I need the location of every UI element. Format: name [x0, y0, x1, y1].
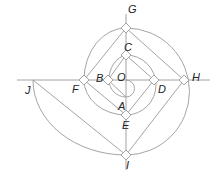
point-label-G: G [128, 4, 137, 15]
segment-DE [126, 80, 154, 115]
point-label-D: D [158, 84, 166, 95]
point-label-B: B [96, 73, 103, 84]
point-label-F: F [72, 84, 79, 95]
point-label-H: H [192, 72, 200, 83]
point-label-I: I [126, 160, 129, 171]
point-label-E: E [122, 120, 129, 131]
point-label-A: A [118, 101, 125, 112]
point-label-J: J [25, 85, 31, 96]
segment-JI [33, 80, 126, 155]
diagram-canvas [0, 0, 220, 178]
point-label-O: O [117, 72, 126, 83]
spiral-diagram: GCBODHFJAEI [0, 0, 220, 178]
segment-GH [126, 28, 184, 80]
spiral-curve [33, 28, 190, 155]
point-label-C: C [124, 42, 132, 53]
